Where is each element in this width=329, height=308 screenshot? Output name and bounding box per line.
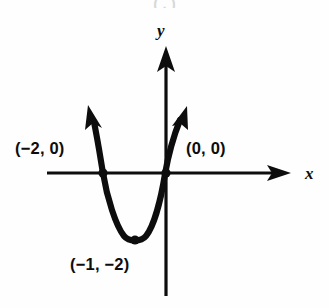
parabola-figure: ( , ) (−2, 0) (0, 0) (−1, −2) y x: [0, 0, 329, 308]
point-label-left-root: (−2, 0): [15, 140, 65, 157]
x-axis-label: x: [305, 165, 314, 182]
y-axis-label: y: [157, 22, 165, 39]
point-label-origin: (0, 0): [186, 140, 226, 157]
point-dot-vertex: [130, 235, 139, 244]
point-dot-left-root: [98, 168, 107, 177]
point-dot-origin: [161, 168, 170, 177]
point-label-vertex: (−1, −2): [70, 256, 129, 273]
